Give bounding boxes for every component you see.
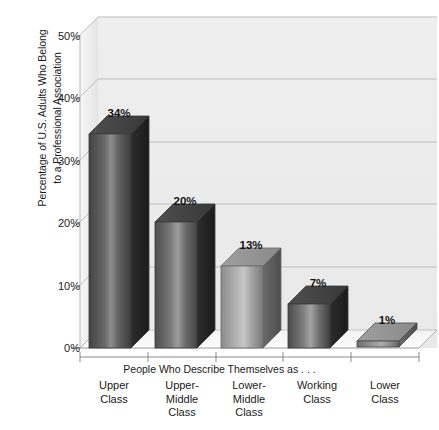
x-category-upper-class: Upper Class bbox=[99, 379, 129, 406]
y-tick-20: 20% bbox=[58, 217, 80, 229]
x-axis bbox=[80, 352, 419, 362]
bar-chart: Percentage of U.S. Adults Who Belong to … bbox=[0, 0, 439, 430]
bar-value-label-upper-middle-class: 20% bbox=[173, 195, 196, 207]
bar-value-label-upper-class: 34% bbox=[107, 107, 130, 119]
bar-value-label-working-class: 7% bbox=[310, 277, 327, 289]
x-axis-title: People Who Describe Themselves as . . . bbox=[0, 363, 439, 375]
bar-upper-class[interactable] bbox=[89, 116, 149, 348]
bar-upper-middle-class[interactable] bbox=[155, 204, 215, 348]
x-category-working-class: Working Class bbox=[297, 379, 337, 406]
bar-value-label-lower-class: 1% bbox=[379, 314, 396, 326]
y-tick-30: 30% bbox=[58, 155, 80, 167]
y-tick-40: 40% bbox=[58, 92, 80, 104]
bar-lower-middle-class[interactable] bbox=[221, 248, 281, 348]
x-category-lower-class: Lower Class bbox=[370, 379, 400, 406]
y-tick-50: 50% bbox=[58, 30, 80, 42]
y-tick-10: 10% bbox=[58, 280, 80, 292]
bar-value-label-lower-middle-class: 13% bbox=[239, 239, 262, 251]
x-category-lower-middle-class: Lower- Middle Class bbox=[232, 379, 266, 420]
y-tick-0: 0% bbox=[64, 342, 80, 354]
bar-working-class[interactable] bbox=[288, 286, 348, 348]
x-category-upper-middle-class: Upper- Middle Class bbox=[165, 379, 199, 420]
